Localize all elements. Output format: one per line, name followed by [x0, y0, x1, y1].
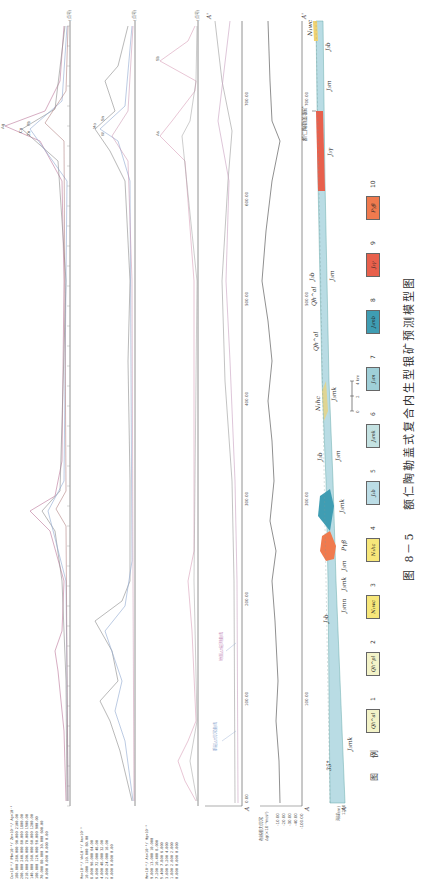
scale-tick-0: 0 [355, 410, 360, 413]
unit-label: J₃γ [326, 148, 333, 156]
legend-code: J₃γ [370, 262, 376, 269]
legend-num: 9 [369, 241, 376, 245]
legend-code: J₃mk [370, 430, 376, 442]
magnetic-x3: 300.00 [244, 492, 249, 506]
legend-swatch-3: N₁wc [366, 595, 380, 619]
legend-code: J₃m [370, 375, 376, 384]
gravity-panel [260, 21, 302, 806]
unit-label: J₃b [324, 42, 331, 51]
legend-num: 10 [369, 180, 376, 188]
magnetic-x5: 500.00 [244, 292, 249, 306]
scale-table-2: Mo×10⁻⁶/ W×10⁻⁶/ Au×10⁻⁹ 10.000 110.000 … [80, 827, 115, 879]
magnetic-x1: 100.00 [244, 692, 249, 706]
scale-table-3: Mn×10⁻⁶/ As×10⁻⁶/ Hg×10⁻⁹ 9.000 13.000 1… [145, 825, 180, 879]
unit-label: J₃mn [340, 599, 347, 613]
profile-start-label: A [243, 807, 250, 811]
unit-label: J₃mk [340, 577, 347, 591]
legend-code: Pγβ [370, 203, 376, 212]
rotated-figure: (点号) (点号) (点号) A' A' A A A Ag Cu Zn Pb M… [0, 0, 426, 881]
gravity-y4: -100.00 [299, 814, 304, 829]
legend-swatch-9: J₃γ [366, 253, 380, 277]
legend-title: 图 例 [368, 744, 379, 781]
legend-num: 7 [369, 355, 376, 359]
gravity-x1: 100.00 [304, 692, 309, 706]
gravity-y0: -10.00 [275, 813, 280, 826]
peak-label-sb: Sb [155, 56, 160, 61]
unit-label: Qh^al [310, 287, 317, 306]
unit-label: Qh^al [312, 332, 319, 351]
unit-label: J₃m [325, 81, 332, 92]
magnetic-panel [205, 21, 242, 806]
gravity-y3: -40.00 [293, 813, 298, 826]
profile-end-label-2: A' [300, 13, 307, 19]
legend-swatch-8: J₃mb [366, 310, 380, 334]
figure-caption: 图 8－5 额仁陶勒盖式复合内生型银矿预测模型图 [400, 276, 416, 582]
caption-title: 额仁陶勒盖式复合内生型银矿预测模型图 [403, 276, 416, 510]
legend-code: Qh^pl [370, 656, 376, 672]
scale-row: 0.000 0.000 0.000 0.00 [45, 805, 50, 879]
unit-label: N₁wc [306, 20, 313, 36]
magnetic-x4: 400.00 [244, 392, 249, 406]
peak-label-w: W [100, 132, 105, 136]
legend-swatch-2: Qh^pl [366, 652, 380, 676]
peak-label-sn: Sn [100, 116, 105, 121]
scale-table-1: Cu×10⁻⁶/ Pb×10⁻⁶/ Zn×10⁻⁶/ Ag×10⁻⁹ 180.0… [10, 805, 50, 879]
legend-swatch-10: Pγβ [366, 196, 380, 220]
magnetic-x7: 700.00 [244, 92, 249, 106]
geochem-panel-1 [5, 21, 70, 806]
dip-label: 35° [325, 760, 332, 771]
gravity-y2: -30.00 [287, 813, 292, 826]
scale-bar [350, 381, 354, 411]
legend-swatch-7: J₃m [366, 367, 380, 391]
axis-unit-1: (点号) [66, 10, 72, 21]
peak-label-cu: Cu [18, 128, 23, 133]
legend-num: 4 [369, 526, 376, 530]
legend-code: J₃mb [370, 316, 376, 328]
magnetic-x0: 0.00 [244, 794, 249, 803]
gravity-x7: 700.00 [304, 92, 309, 106]
legend-swatch-6: J₃mk [366, 424, 380, 448]
legend-swatch-1: Qh^al [366, 709, 380, 733]
profile-start-label-2: A [303, 807, 310, 811]
legend-num: 2 [369, 640, 376, 644]
legend-num: 6 [369, 412, 376, 416]
peak-label-mo: Mo [92, 123, 97, 129]
unit-label: Pγβ [340, 540, 347, 551]
scale-row: 0.000 0.000 0.00 [110, 827, 115, 879]
geology-section [312, 21, 345, 803]
legend-num: 8 [369, 298, 376, 302]
legend-code: J₃b [370, 489, 376, 496]
magnetic-annotation-air: 航磁ΔT异常曲线 [212, 722, 218, 751]
unit-label: J₃m [340, 561, 347, 572]
unit-label: J₃m [328, 271, 335, 282]
profile-end-label: A' [205, 13, 212, 19]
unit-label: J₃mk [338, 499, 345, 513]
unit-label: N₁hc [314, 396, 321, 411]
scale-tick-4: 4 km [355, 375, 360, 385]
gravity-x3: 300.00 [304, 492, 309, 506]
unit-label: J₃b [322, 614, 329, 623]
scale-tick-2: 2 [355, 395, 360, 398]
gravity-y1: -20.00 [281, 813, 286, 826]
geochem-panel-2 [95, 21, 135, 806]
gravity-axis-label: 布格重力异常Δg(×10⁻⁵m/s²) [258, 807, 269, 841]
elevation-1200: 1200 [341, 805, 346, 815]
peak-label-as: As [155, 131, 160, 136]
legend-num: 3 [369, 583, 376, 587]
axis-unit-3: (点号) [194, 10, 200, 21]
caption-number: 图 8－5 [403, 532, 416, 582]
legend-num: 1 [369, 697, 376, 701]
legend-num: 5 [369, 469, 376, 473]
unit-label: J₃mk [346, 737, 353, 751]
gravity-x5: 500.00 [304, 292, 309, 306]
unit-label: J₃m [334, 451, 341, 462]
unit-label: J₃b [308, 272, 315, 281]
axis-unit-2: (点号) [131, 10, 137, 21]
peak-label-pb: Pb [26, 121, 31, 126]
peak-label-ag: Ag [0, 124, 5, 129]
legend-code: N₁hc [370, 544, 376, 556]
deposit-label: 额仁陶勒盖银矿 [300, 106, 307, 141]
geochem-panel-3 [160, 21, 198, 806]
legend-swatch-5: J₃b [366, 481, 380, 505]
unit-label: J₃b [316, 452, 323, 461]
